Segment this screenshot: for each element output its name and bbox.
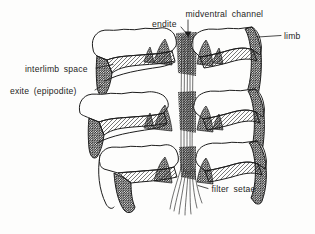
- limb-label: limb: [284, 31, 301, 41]
- interlimb-space-label: interlimb space: [25, 64, 88, 74]
- filter-setae-label: filter setae: [212, 184, 256, 194]
- limb-anatomy-figure: midventral channel endite limb interlimb…: [0, 0, 315, 234]
- exite-epipodite-label: exite (epipodite): [10, 86, 77, 96]
- midventral-channel-label: midventral channel: [186, 9, 264, 19]
- channel-patch: [179, 146, 196, 180]
- limb-diagram: midventral channel endite limb interlimb…: [0, 0, 315, 234]
- endite-label: endite: [152, 19, 177, 29]
